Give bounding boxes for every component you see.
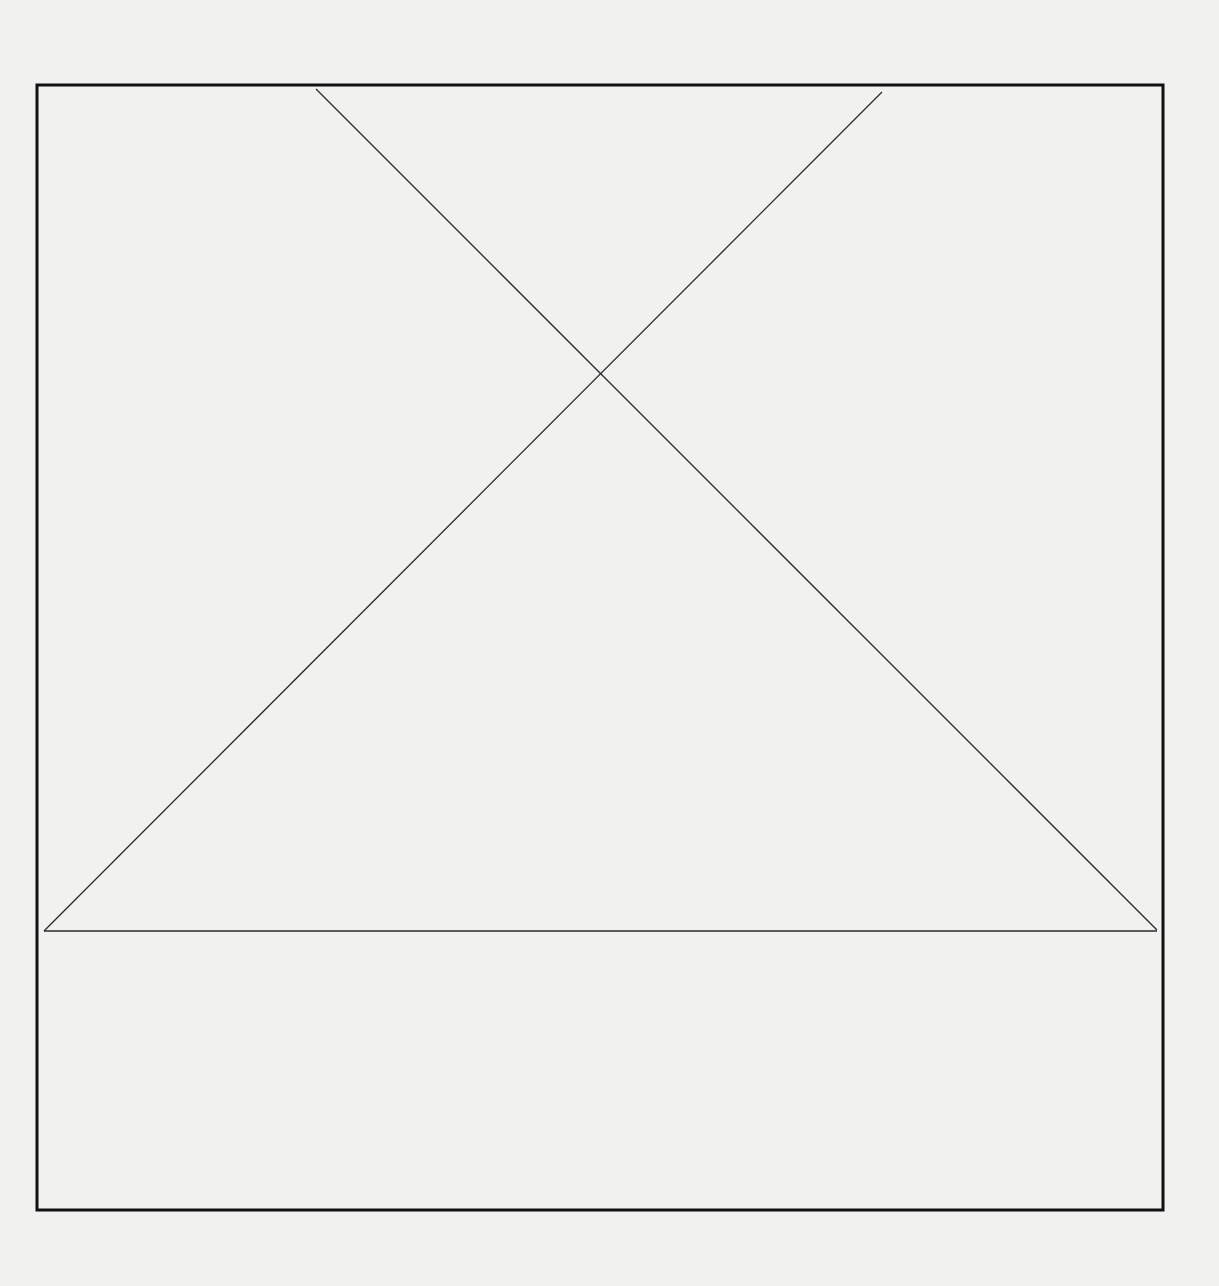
diagram-svg (0, 0, 1219, 1286)
diagram-canvas (0, 0, 1219, 1286)
diagonal-ascending-line (44, 92, 882, 931)
outer-frame (37, 85, 1163, 1210)
diagonal-descending-line (316, 89, 1157, 930)
